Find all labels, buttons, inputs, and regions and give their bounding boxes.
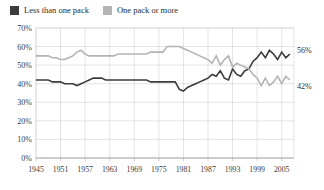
series-line-less-than-one-pack (36, 50, 290, 91)
x-axis-tick-labels: 1945195119571963196919751981198719931999… (28, 165, 289, 174)
legend-swatch-gray-icon (103, 6, 112, 15)
legend-label-less-than-one-pack: Less than one pack (24, 5, 89, 15)
y-gridlines (36, 28, 294, 158)
end-label-less-than-one-pack: 56% (297, 46, 312, 55)
legend-item-one-pack-or-more[interactable]: One pack or more (103, 5, 178, 15)
x-tick-label: 1951 (53, 165, 69, 174)
x-tick-label: 1957 (77, 165, 93, 174)
legend-swatch-dark-icon (10, 6, 19, 15)
y-tick-label: 50% (17, 61, 32, 70)
smoking-trend-line-chart: Less than one pack One pack or more 0%10… (0, 0, 324, 190)
chart-legend: Less than one pack One pack or more (10, 3, 178, 17)
line-chart-svg: 0%10%20%30%40%50%60%70% 1945195119571963… (0, 20, 324, 190)
y-tick-label: 40% (17, 80, 32, 89)
series-end-labels: 56%42% (297, 46, 312, 91)
x-tick-label: 1981 (176, 165, 192, 174)
x-tick-label: 1987 (200, 165, 216, 174)
y-tick-label: 20% (17, 117, 32, 126)
x-tick-label: 2005 (274, 165, 290, 174)
legend-label-one-pack-or-more: One pack or more (117, 5, 178, 15)
x-tick-label: 1975 (151, 165, 167, 174)
x-tick-label: 1969 (126, 165, 142, 174)
legend-item-less-than-one-pack[interactable]: Less than one pack (10, 5, 89, 15)
y-tick-label: 30% (17, 98, 32, 107)
y-tick-label: 60% (17, 43, 32, 52)
x-tick-label: 1963 (102, 165, 118, 174)
y-tick-label: 10% (17, 135, 32, 144)
chart-axes (36, 28, 294, 161)
data-series-group (36, 47, 290, 92)
x-tick-label: 1945 (28, 165, 44, 174)
series-line-one-pack-or-more (36, 47, 290, 86)
end-label-one-pack-or-more: 42% (297, 82, 312, 91)
plot-area-container: 0%10%20%30%40%50%60%70% 1945195119571963… (0, 20, 324, 190)
y-tick-label: 70% (17, 24, 32, 33)
y-tick-label: 0% (21, 154, 32, 163)
x-tick-label: 1993 (225, 165, 241, 174)
x-gridlines (36, 28, 282, 158)
x-tick-label: 1999 (249, 165, 265, 174)
y-axis-tick-labels: 0%10%20%30%40%50%60%70% (17, 24, 32, 163)
